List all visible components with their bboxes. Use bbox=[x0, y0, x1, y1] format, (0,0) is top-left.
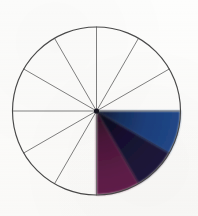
color-wheel-svg bbox=[0, 0, 198, 216]
color-wheel-figure bbox=[0, 0, 198, 216]
wheel-hub bbox=[94, 108, 99, 113]
